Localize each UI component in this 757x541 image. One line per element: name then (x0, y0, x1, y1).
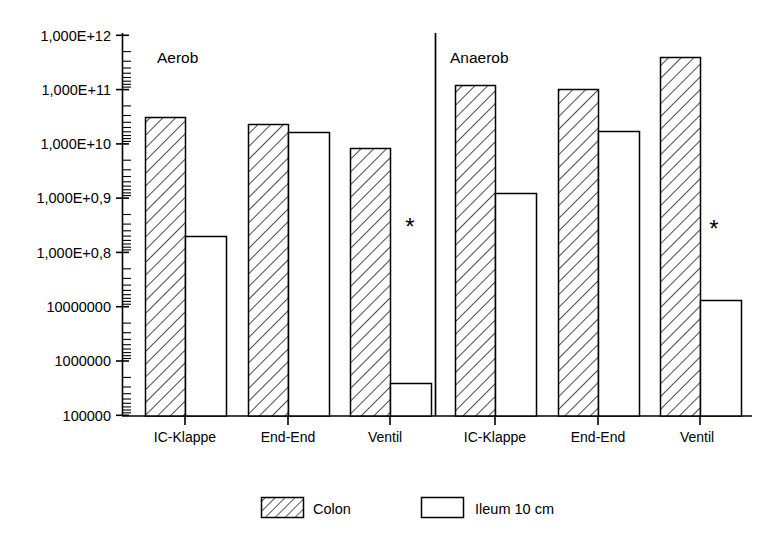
y-tick-label: 1,000E+0,9 (36, 190, 111, 206)
x-tick-label-5: End-End (571, 429, 625, 445)
legend-label-ileum: Ileum 10 cm (475, 501, 554, 517)
bar-ileum[interactable] (496, 194, 537, 417)
chart-root: 1,000E+12 1,000E+11 1,000E+10 1,000E+0,9… (0, 0, 757, 541)
bar-ileum[interactable] (599, 132, 640, 417)
bar-colon[interactable] (456, 86, 496, 417)
x-tick-label-2: End-End (261, 429, 315, 445)
x-tick-label-1: IC-Klappe (154, 429, 216, 445)
y-tick-label: 10000000 (46, 299, 111, 315)
bar-colon[interactable] (559, 90, 599, 417)
legend-label-colon: Colon (313, 501, 351, 517)
legend-item-ileum[interactable]: Ileum 10 cm (422, 498, 554, 518)
y-tick-label: 1,000E+10 (40, 136, 111, 152)
panel-label-anaerob: Anaerob (450, 49, 509, 66)
legend-swatch-ileum (422, 498, 464, 518)
y-tick-label: 100000 (63, 408, 111, 424)
y-tick-label: 1,000E+0,8 (36, 245, 111, 261)
bar-ileum[interactable] (289, 133, 330, 417)
y-tick-label: 1,000E+11 (42, 82, 111, 98)
bar-ileum[interactable] (391, 384, 432, 417)
bar-colon[interactable] (661, 58, 701, 417)
bar-colon[interactable] (351, 149, 391, 417)
y-tick-label: 1,000E+12 (40, 28, 111, 44)
bar-group-anaerob-end-end (559, 90, 640, 417)
bar-colon[interactable] (146, 118, 186, 417)
bar-ileum[interactable] (186, 237, 227, 417)
legend-swatch-colon (262, 498, 304, 518)
x-tick-label-4: IC-Klappe (464, 429, 526, 445)
x-tick-label-6: Ventil (680, 429, 714, 445)
bar-colon[interactable] (249, 125, 289, 417)
bar-group-aerob-end-end (249, 125, 330, 417)
significance-star: * (709, 215, 718, 242)
significance-star: * (405, 213, 414, 240)
y-tick-label: 1000000 (55, 353, 111, 369)
x-tick-label-3: Ventil (368, 429, 402, 445)
panel-label-aerob: Aerob (157, 49, 198, 66)
bar-ileum[interactable] (701, 301, 742, 417)
grouped-bar-chart: 1,000E+12 1,000E+11 1,000E+10 1,000E+0,9… (0, 0, 757, 541)
